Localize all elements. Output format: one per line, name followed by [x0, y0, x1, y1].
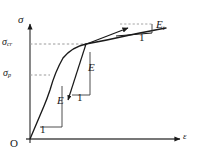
sigma-cr-tick-label: σcr	[2, 37, 12, 48]
sigma-axis-label: σ	[18, 14, 23, 25]
elastic-modulus-unloading-label: E	[88, 62, 95, 73]
stress-strain-curve	[30, 28, 166, 139]
stress-strain-figure: σ ε O σcr σp E 1 E 1 Et 1	[0, 0, 197, 159]
sigma-p-subscript: p	[8, 71, 11, 78]
loading-run-label: 1	[40, 124, 46, 135]
tangent-modulus-subscript: t	[163, 24, 165, 31]
figure-canvas	[0, 0, 197, 159]
tangent-triangle-run	[116, 33, 152, 36]
sigma-cr-subscript: cr	[7, 40, 12, 47]
elastic-modulus-loading-label: E	[57, 95, 64, 106]
tangent-run-label: 1	[139, 32, 145, 43]
origin-label: O	[10, 138, 18, 149]
epsilon-axis-label: ε	[183, 132, 187, 141]
tangent-modulus-symbol: E	[156, 18, 163, 30]
unloading-run-label: 1	[77, 92, 83, 103]
sigma-p-tick-label: σp	[3, 68, 11, 79]
tangent-modulus-label: Et	[156, 19, 165, 31]
